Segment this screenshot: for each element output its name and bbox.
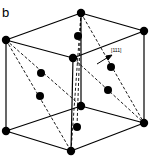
- cube-drawing: [111]: [0, 0, 152, 158]
- direction-label: [111]: [111, 47, 122, 53]
- crystal-unit-cell-diagram: b: [0, 0, 152, 158]
